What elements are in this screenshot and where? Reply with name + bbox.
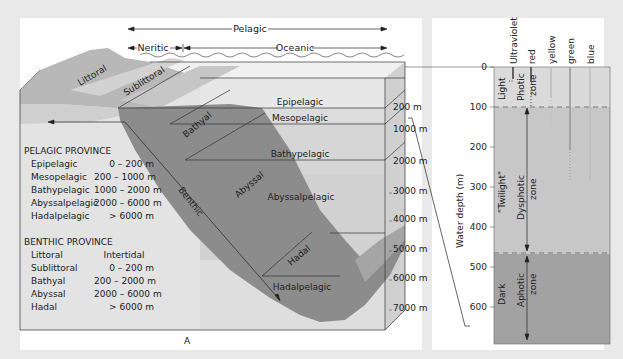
svg-text:6000 m: 6000 m	[393, 273, 428, 283]
legend-name: Hadalpelagic	[31, 210, 94, 223]
photic-zone-word: zone	[528, 74, 538, 96]
svg-text:5000 m: 5000 m	[393, 244, 428, 254]
bathypelagic-label: Bathypelagic	[271, 149, 330, 159]
ultraviolet-label: Ultraviolet	[509, 17, 519, 64]
tick-400: 400	[470, 222, 487, 232]
svg-text:7000 m: 7000 m	[393, 303, 428, 313]
tick-600: 600	[470, 302, 487, 312]
tick-100: 100	[470, 102, 487, 112]
legend-name: Epipelagic	[31, 158, 94, 171]
svg-text:4000 m: 4000 m	[393, 214, 428, 224]
legend-range: 2000 – 6000 m	[94, 197, 154, 210]
dark-label: Dark	[497, 283, 507, 305]
pelagic-province-title: PELAGIC PROVINCE	[24, 145, 154, 158]
legend-name: Abyssal	[31, 288, 94, 301]
caption-a: A	[184, 336, 191, 346]
legend-row: Bathypelagic1000 – 2000 m	[24, 184, 154, 197]
legend-range: > 6000 m	[94, 301, 154, 314]
legend-row: LittoralIntertidal	[24, 249, 154, 262]
oceanic-label: Oceanic	[276, 42, 314, 53]
aphotic-label: Aphotic	[516, 273, 526, 307]
svg-text:200 m: 200 m	[393, 102, 422, 112]
green-label: green	[566, 38, 576, 64]
legend-range: > 6000 m	[94, 210, 154, 223]
legend-row: Bathyal200 – 2000 m	[24, 275, 154, 288]
legend-row: Sublittoral0 – 200 m	[24, 262, 154, 275]
y-axis-label: Water depth (m)	[455, 174, 465, 248]
legend-range: 200 – 2000 m	[94, 275, 154, 288]
aphotic-zone-word: zone	[528, 273, 538, 295]
red-label: red	[527, 49, 537, 64]
legend-name: Mesopelagic	[31, 171, 94, 184]
neritic-label: Neritic	[137, 42, 168, 53]
sea-surface	[140, 53, 404, 57]
legend-name: Littoral	[31, 249, 94, 262]
light-label: Light	[497, 77, 507, 100]
photic-label: Photic	[516, 73, 526, 101]
legend-range: Intertidal	[94, 249, 154, 262]
hadalpelagic-label: Hadalpelagic	[273, 282, 331, 292]
legend-row: Epipelagic0 – 200 m	[24, 158, 154, 171]
epipelagic-label: Epipelagic	[277, 97, 323, 107]
legend-row: Mesopelagic200 – 1000 m	[24, 171, 154, 184]
legend-name: Bathypelagic	[31, 184, 94, 197]
province-legend: PELAGIC PROVINCE Epipelagic0 – 200 m Mes…	[24, 145, 154, 314]
benthic-province-title: BENTHIC PROVINCE	[24, 236, 154, 249]
dysphotic-zone-word: zone	[528, 178, 538, 200]
legend-row: Abyssal2000 – 6000 m	[24, 288, 154, 301]
svg-text:1000 m: 1000 m	[393, 124, 428, 134]
legend-range: 1000 – 2000 m	[94, 184, 154, 197]
tick-200: 200	[470, 142, 487, 152]
legend-name: Hadal	[31, 301, 94, 314]
legend-range: 0 – 200 m	[94, 262, 154, 275]
legend-range: 200 – 1000 m	[94, 171, 154, 184]
twilight-label: "Twilight"	[497, 171, 507, 213]
abyssalpelagic-label: Abyssalpelagic	[267, 192, 334, 202]
svg-text:3000 m: 3000 m	[393, 186, 428, 196]
pelagic-label: Pelagic	[233, 23, 267, 34]
light-penetration-chart: 0 100 200 300 400 500 600 Water depth (m…	[405, 17, 610, 344]
svg-text:2000 m: 2000 m	[393, 156, 428, 166]
yellow-label: yellow	[547, 35, 557, 64]
tick-0: 0	[481, 62, 487, 72]
legend-name: Sublittoral	[31, 262, 94, 275]
legend-range: 2000 – 6000 m	[94, 288, 154, 301]
tick-500: 500	[470, 262, 487, 272]
legend-name: Bathyal	[31, 275, 94, 288]
legend-name: Abyssalpelagic	[31, 197, 94, 210]
dysphotic-label: Dysphotic	[516, 175, 526, 220]
legend-row: Abyssalpelagic2000 – 6000 m	[24, 197, 154, 210]
blue-label: blue	[586, 44, 596, 64]
tick-300: 300	[470, 182, 487, 192]
legend-range: 0 – 200 m	[94, 158, 154, 171]
legend-row: Hadal> 6000 m	[24, 301, 154, 314]
legend-row: Hadalpelagic> 6000 m	[24, 210, 154, 223]
mesopelagic-label: Mesopelagic	[272, 113, 328, 123]
